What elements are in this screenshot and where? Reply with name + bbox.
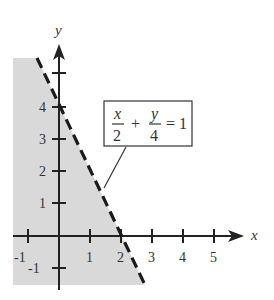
inequality-graph: y x -1 1 2 3 4 5 4 3 2 1 -1 x 2 + y 4 = … <box>0 0 274 300</box>
x-tick-label: -1 <box>14 250 26 265</box>
x-tick-label: 3 <box>148 250 155 265</box>
shaded-region <box>13 58 145 285</box>
eq-y-numerator: y <box>149 105 159 123</box>
eq-y-denominator: 4 <box>150 127 158 144</box>
x-tick-label: 1 <box>86 250 93 265</box>
x-tick-label: 4 <box>179 250 186 265</box>
equation-callout: x 2 + y 4 = 1 <box>104 101 192 188</box>
y-axis-label: y <box>53 22 62 38</box>
x-tick-label: 2 <box>117 250 124 265</box>
eq-x-denominator: 2 <box>113 127 121 144</box>
eq-plus: + <box>131 115 140 132</box>
eq-equals-one: = 1 <box>166 115 187 132</box>
callout-leader-line <box>104 147 126 188</box>
x-tick-label: 5 <box>210 250 217 265</box>
eq-x-numerator: x <box>113 105 121 122</box>
y-tick-label: 1 <box>39 196 46 211</box>
y-tick-label: 3 <box>39 132 46 147</box>
y-tick-label: 4 <box>39 100 46 115</box>
y-tick-label: -1 <box>28 261 40 276</box>
y-tick-label: 2 <box>39 164 46 179</box>
x-axis-label: x <box>250 227 258 243</box>
